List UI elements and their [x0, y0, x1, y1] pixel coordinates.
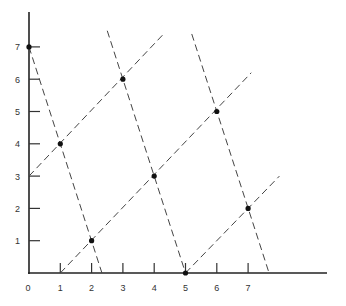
- y-tick-label: 7: [15, 42, 20, 52]
- x-tick-label: 2: [89, 283, 94, 293]
- x-tick-label: 6: [214, 283, 219, 293]
- y-tick-label: 6: [15, 75, 20, 85]
- diagonal-line-1: [29, 34, 164, 176]
- data-point: [183, 270, 188, 275]
- data-point: [246, 206, 251, 211]
- x-tick-label: 3: [120, 283, 125, 293]
- data-point: [26, 44, 31, 49]
- y-tick-label: 4: [15, 139, 20, 149]
- data-point: [152, 174, 157, 179]
- lattice-diagram: 012345671234567: [0, 0, 346, 306]
- y-tick-label: 1: [15, 236, 20, 246]
- steep-line-3: [192, 34, 269, 273]
- y-tick-label: 3: [15, 172, 20, 182]
- axis-ticks: 012345671234567: [15, 42, 251, 293]
- y-tick-label: 2: [15, 204, 20, 214]
- axes: [28, 12, 327, 274]
- data-point: [214, 109, 219, 114]
- x-tick-label: 7: [246, 283, 251, 293]
- x-tick-label: 5: [183, 283, 188, 293]
- y-tick-label: 5: [15, 107, 20, 117]
- dashed-lines: [29, 31, 279, 273]
- data-point: [120, 77, 125, 82]
- data-point: [89, 238, 94, 243]
- steep-line-2: [107, 31, 185, 273]
- data-point: [58, 141, 63, 146]
- x-tick-label: 1: [58, 283, 63, 293]
- x-tick-label: 0: [25, 283, 30, 293]
- diagonal-line-3: [186, 176, 280, 273]
- x-tick-label: 4: [152, 283, 157, 293]
- diagonal-line-2: [60, 73, 251, 273]
